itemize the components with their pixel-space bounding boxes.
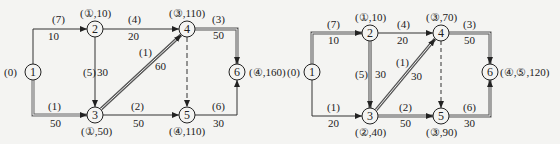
edge-5-6: (6) 30 (195, 80, 237, 129)
edge-cost-label: 30 (464, 117, 476, 129)
network-diagrams: (7) 10 (1) 50 (4) 20 (5) 30 (1) (0, 0, 560, 144)
edge-cost-label: 10 (48, 30, 60, 42)
edge-4-6: (3) 50 (195, 13, 237, 64)
edge-flow-label: (7) (327, 18, 340, 31)
edge-3-4: (1) 60 (101, 35, 181, 109)
edge-cost-label: 30 (97, 66, 109, 78)
edge-3-5: (2) 50 (103, 100, 179, 129)
node-number: 2 (92, 22, 98, 36)
edge-cost-label: 50 (400, 117, 412, 129)
node-1: 1 (0) (287, 64, 320, 80)
edge-flow-label: (1) (48, 100, 61, 113)
edge-1-3: (1) 50 (33, 80, 87, 129)
edge-cost-label: 20 (328, 117, 340, 129)
node-3: 3 (①,50) (81, 107, 112, 138)
node-number: 6 (487, 65, 493, 79)
edge-2-3: (5) 30 (355, 41, 387, 108)
edge-cost-label: 20 (128, 30, 140, 42)
node-mark: (0) (287, 66, 300, 79)
edge-flow-label: (5) (83, 66, 96, 79)
node-number: 1 (309, 65, 315, 79)
edge-2-4: (4) 20 (103, 13, 179, 42)
edge-1-3: (1) 20 (312, 80, 362, 129)
edge-cost-label: 50 (133, 117, 145, 129)
node-2: 2 (①,10) (355, 11, 386, 41)
node-4: 4 (③,70) (426, 11, 457, 41)
edge-flow-label: (6) (463, 101, 476, 114)
edge-flow-label: (1) (327, 101, 340, 114)
edge-2-3: (5) 30 (83, 37, 109, 107)
edge-cost-label: 60 (155, 60, 167, 72)
node-mark: (③,90) (426, 126, 457, 139)
edge-cost-label: 10 (328, 34, 340, 46)
node-number: 3 (92, 108, 98, 122)
node-number: 4 (184, 22, 190, 36)
edge-cost-label: 30 (213, 117, 225, 129)
node-2: 2 (①,10) (80, 7, 111, 37)
node-mark: (①,10) (355, 11, 386, 24)
node-5: 5 (④,110) (169, 107, 206, 138)
node-mark: (①,50) (81, 125, 112, 138)
node-number: 1 (30, 65, 36, 79)
edge-flow-label: (7) (52, 13, 65, 26)
node-number: 2 (367, 26, 373, 40)
node-mark: (④,110) (169, 125, 206, 138)
diagram-right: (7) 10 (1) 20 (4) 20 (5) 30 (1) (287, 11, 550, 139)
diagram-left: (7) 10 (1) 50 (4) 20 (5) 30 (1) (4, 7, 286, 138)
edge-flow-label: (4) (128, 13, 141, 26)
node-number: 4 (438, 26, 444, 40)
node-mark: (0) (4, 66, 17, 79)
node-mark: (②,40) (355, 126, 386, 139)
edge-flow-label: (1) (396, 56, 409, 69)
edge-flow-label: (5) (355, 68, 368, 81)
edge-4-6: (3) 50 (449, 18, 490, 64)
node-4: 4 (③,110) (169, 7, 206, 37)
node-3: 3 (②,40) (355, 108, 386, 139)
edge-cost-label: 50 (50, 117, 62, 129)
node-mark: (③,70) (426, 11, 457, 24)
edge-cost-label: 30 (375, 68, 387, 80)
node-number: 6 (234, 65, 240, 79)
edge-cost-label: 50 (464, 34, 476, 46)
edge-flow-label: (3) (463, 18, 476, 31)
node-mark: (①,10) (80, 7, 111, 20)
edge-flow-label: (6) (212, 100, 225, 113)
edge-3-5: (2) 50 (378, 101, 433, 129)
edge-flow-label: (3) (212, 13, 225, 26)
node-1: 1 (0) (4, 64, 41, 80)
edge-flow-label: (4) (397, 18, 410, 31)
edge-flow-label: (2) (399, 101, 412, 114)
edge-flow-label: (2) (131, 100, 144, 113)
edge-1-2: (7) 10 (33, 13, 87, 64)
node-6: 6 (④,⑤,120) (482, 64, 550, 80)
node-mark: (④,⑤,120) (500, 66, 550, 79)
node-5: 5 (③,90) (426, 108, 457, 139)
node-number: 3 (367, 109, 373, 123)
edge-flow-label: (1) (139, 46, 152, 59)
edge-2-4: (4) 20 (378, 18, 433, 46)
edge-cost-label: 30 (411, 70, 423, 82)
edge-cost-label: 20 (397, 34, 409, 46)
node-number: 5 (184, 108, 190, 122)
edge-1-2: (7) 10 (312, 18, 362, 64)
node-mark: (③,110) (169, 7, 206, 20)
node-number: 5 (438, 109, 444, 123)
edge-cost-label: 50 (213, 29, 225, 41)
node-mark: (④,160) (249, 66, 286, 79)
node-6: 6 (④,160) (229, 64, 286, 80)
edge-5-6: (6) 30 (449, 80, 490, 129)
